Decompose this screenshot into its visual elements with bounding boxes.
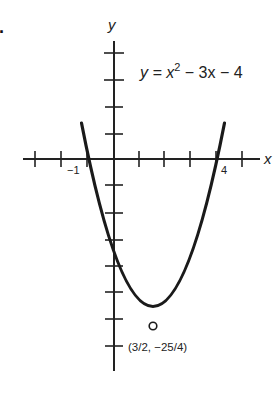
x-tick-label-neg1: −1 — [67, 164, 80, 176]
equation-lhs: y = x — [139, 64, 175, 81]
vertex-point — [149, 322, 157, 330]
parabola-curve — [82, 123, 225, 307]
parabola-graph: y x −1 4 y = x2 − 3x − 4 (3/2, −25/4) — [0, 0, 278, 394]
y-axis-label: y — [107, 16, 117, 33]
vertex-label: (3/2, −25/4) — [128, 341, 187, 353]
x-tick-label-4: 4 — [221, 164, 227, 176]
x-axis-label: x — [263, 150, 272, 167]
equation-rhs: − 3x − 4 — [180, 64, 242, 81]
equation-label: y = x2 − 3x − 4 — [139, 61, 243, 81]
